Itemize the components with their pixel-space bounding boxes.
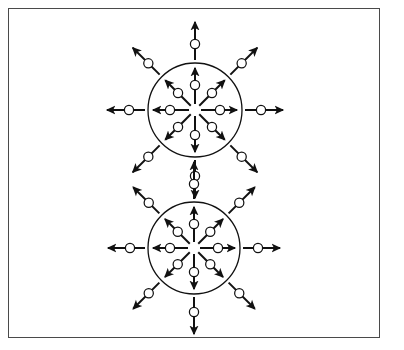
- particle-marker: [190, 130, 199, 139]
- particle-marker: [189, 267, 198, 276]
- particle-marker: [206, 227, 215, 236]
- particle-marker: [189, 219, 198, 228]
- particle-marker: [173, 260, 182, 269]
- particle-marker: [144, 152, 153, 161]
- particle-marker: [189, 179, 198, 188]
- particle-marker: [189, 307, 198, 316]
- particle-marker: [237, 59, 246, 68]
- particle-marker: [144, 59, 153, 68]
- particle-marker: [144, 289, 153, 298]
- particle-marker: [206, 260, 215, 269]
- clusters-layer: [107, 22, 283, 334]
- particle-marker: [256, 105, 265, 114]
- lower-cluster: [108, 162, 280, 334]
- particle-marker: [124, 105, 133, 114]
- particle-marker: [190, 80, 199, 89]
- particle-marker: [173, 122, 182, 131]
- particle-marker: [215, 105, 224, 114]
- particle-marker: [190, 39, 199, 48]
- particle-marker: [235, 198, 244, 207]
- particle-marker: [144, 198, 153, 207]
- particle-marker: [173, 227, 182, 236]
- particle-marker: [165, 243, 174, 252]
- particle-marker: [253, 243, 262, 252]
- particle-marker: [235, 289, 244, 298]
- particle-marker: [213, 243, 222, 252]
- particle-marker: [125, 243, 134, 252]
- particle-marker: [173, 88, 182, 97]
- diagram-canvas: [0, 0, 404, 350]
- figure-root: Two-centre radial expansion diagram Two …: [0, 0, 404, 350]
- particle-marker: [237, 152, 246, 161]
- particle-marker: [207, 88, 216, 97]
- particle-marker: [165, 105, 174, 114]
- particle-marker: [207, 122, 216, 131]
